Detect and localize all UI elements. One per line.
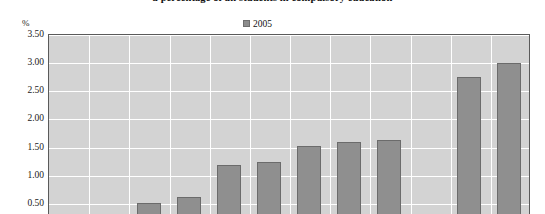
y-axis-tick-label: 1.00: [0, 170, 44, 180]
bar[interactable]: [377, 140, 401, 214]
bar-slot: [369, 35, 409, 214]
bar-slot: [249, 35, 289, 214]
bar-slot: [329, 35, 369, 214]
legend-swatch-2005: [243, 20, 250, 27]
bar[interactable]: [257, 162, 281, 214]
bar[interactable]: [177, 197, 201, 214]
plot-area: [48, 34, 530, 214]
bar-slot: [289, 35, 329, 214]
y-axis-tick-label: 2.50: [0, 85, 44, 95]
y-axis-tick-label: 3.50: [0, 29, 44, 39]
bar[interactable]: [217, 165, 241, 214]
bar[interactable]: [137, 203, 161, 214]
bar[interactable]: [297, 146, 321, 214]
bar-slot: [129, 35, 169, 214]
chart-title: a percentage of all students in compulso…: [0, 0, 545, 3]
bar[interactable]: [457, 77, 481, 214]
chart-legend: 2005: [243, 18, 272, 29]
bar-slot: [449, 35, 489, 214]
y-axis-tick-label: 2.00: [0, 113, 44, 123]
bar-slot: [489, 35, 529, 214]
bar-series-2005: [49, 35, 529, 214]
bar-slot: [89, 35, 129, 214]
bar-slot: [209, 35, 249, 214]
bar-slot: [169, 35, 209, 214]
bar[interactable]: [497, 63, 521, 214]
chart-root: a percentage of all students in compulso…: [0, 0, 545, 214]
y-axis-tick-label: 1.50: [0, 142, 44, 152]
bar[interactable]: [337, 142, 361, 214]
y-axis-tick-label: 0.50: [0, 198, 44, 208]
y-axis-tick-labels: 3.503.002.502.001.501.000.50: [0, 0, 44, 214]
legend-label-2005: 2005: [253, 19, 272, 29]
y-axis-tick-label: 3.00: [0, 57, 44, 67]
bar-slot: [409, 35, 449, 214]
bar-slot: [49, 35, 89, 214]
